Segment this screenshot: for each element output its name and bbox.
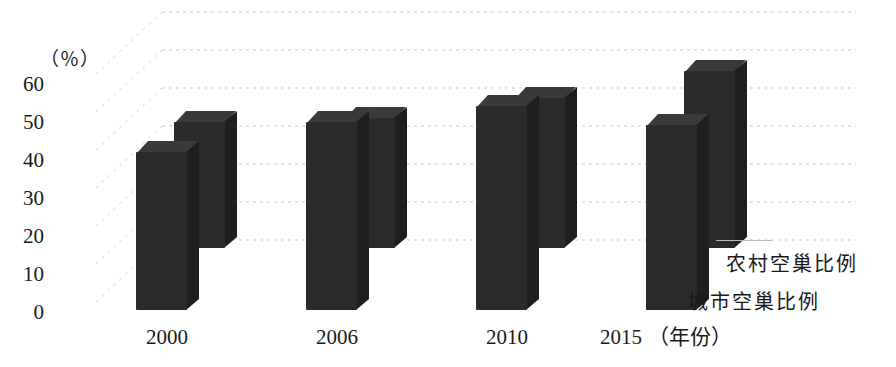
y-tick-20: 20 [0, 226, 44, 247]
y-tick-30: 30 [0, 188, 44, 209]
x-tick-2010: 2010 [486, 327, 528, 348]
bar-front-face [136, 152, 187, 310]
legend-label-rural: 农村空巢比例 [726, 248, 858, 277]
bar-urban-2006 [306, 122, 368, 310]
y-tick-40: 40 [0, 150, 44, 171]
y-tick-0: 0 [0, 302, 44, 323]
bar-side-face [186, 141, 199, 310]
bar-side-face [696, 114, 709, 310]
bar-front-face [476, 106, 527, 310]
x-axis-title: （年份） [648, 327, 732, 348]
legend-leader-line-rural [716, 240, 772, 241]
legend-label-urban: 城市空巢比例 [688, 286, 820, 315]
x-tick-2006: 2006 [316, 327, 358, 348]
bar-urban-2010 [476, 106, 538, 310]
y-tick-60: 60 [0, 74, 44, 95]
bar-urban-2000 [136, 152, 198, 310]
bar-front-face [306, 122, 357, 310]
bar-side-face [526, 95, 539, 310]
bar-urban-2015 [646, 125, 708, 310]
bar-side-face [394, 107, 407, 248]
bar-side-face [356, 111, 369, 310]
x-tick-2015: 2015 [600, 327, 642, 348]
y-tick-50: 50 [0, 112, 44, 133]
y-axis-unit-label: （％） [40, 44, 100, 71]
x-tick-2000: 2000 [146, 327, 188, 348]
bar-side-face [734, 60, 747, 248]
bar-side-face [564, 87, 577, 248]
bar-front-face [646, 125, 697, 310]
bar-side-face [224, 111, 237, 248]
empty-nest-ratio-bar-chart: （％） 60 50 40 30 20 10 0 [0, 0, 896, 367]
y-tick-10: 10 [0, 264, 44, 285]
